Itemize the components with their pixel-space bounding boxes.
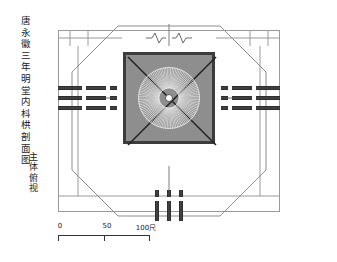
bracket-set bbox=[221, 86, 228, 90]
bracket-set bbox=[110, 86, 117, 90]
bracket-set bbox=[256, 96, 280, 100]
bracket-set bbox=[110, 106, 117, 110]
subtitle: 主体俯视 bbox=[12, 152, 38, 194]
bracket-set bbox=[86, 96, 106, 100]
scale-label-0: 0 bbox=[58, 222, 62, 230]
bracket-set bbox=[256, 86, 280, 90]
page-title: 唐永徽三年明堂内枓栱剖面图 bbox=[19, 16, 32, 167]
bracket-set bbox=[58, 106, 82, 110]
bracket-set bbox=[232, 106, 252, 110]
scale-bar: 0 50 100尺 bbox=[58, 222, 156, 246]
bracket-set bbox=[155, 190, 159, 197]
central-hub bbox=[165, 94, 173, 102]
scale-label-100: 100尺 bbox=[136, 222, 156, 232]
bracket-set bbox=[86, 106, 106, 110]
scale-label-50: 50 bbox=[103, 222, 112, 230]
bracket-set bbox=[232, 96, 252, 100]
bracket-set bbox=[58, 96, 82, 100]
bracket-set bbox=[110, 96, 117, 100]
bracket-set bbox=[167, 201, 171, 221]
bracket-set bbox=[167, 190, 171, 197]
architectural-plan-drawing: 唐永徽三年明堂内枓栱剖面图 主体俯视 bbox=[0, 0, 337, 262]
bracket-set bbox=[179, 201, 183, 221]
bracket-set bbox=[58, 86, 82, 90]
title-block: 唐永徽三年明堂内枓栱剖面图 bbox=[12, 16, 38, 167]
scale-rule bbox=[58, 235, 150, 242]
bracket-set bbox=[155, 201, 159, 221]
bracket-set bbox=[221, 96, 228, 100]
bracket-set bbox=[221, 106, 228, 110]
bracket-set bbox=[86, 86, 106, 90]
bracket-set bbox=[232, 86, 252, 90]
bracket-set bbox=[256, 106, 280, 110]
bracket-set bbox=[179, 190, 183, 197]
